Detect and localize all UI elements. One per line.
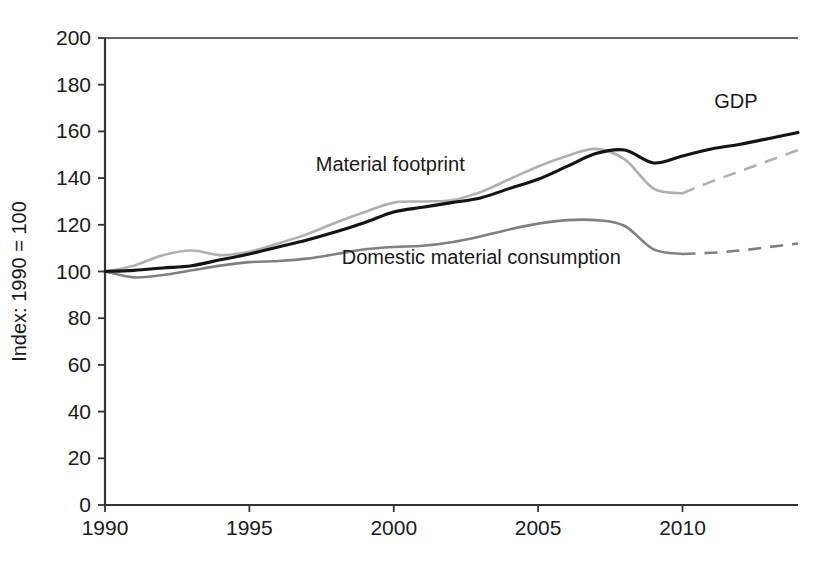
chart-figure: 0204060801001201401601802001990199520002… — [0, 0, 813, 566]
y-axis-title: Index: 1990 = 100 — [8, 201, 30, 362]
y-axis-tick-label: 80 — [68, 306, 91, 329]
y-axis-tick-label: 100 — [56, 260, 91, 283]
y-axis-tick-label: 0 — [79, 493, 91, 516]
y-axis-tick-label: 20 — [68, 446, 91, 469]
y-axis-tick-label: 160 — [56, 119, 91, 142]
y-axis-tick-label: 60 — [68, 353, 91, 376]
x-axis-tick-label: 2000 — [370, 516, 417, 539]
x-axis-tick-label: 2005 — [515, 516, 562, 539]
gdp-annotation: GDP — [714, 90, 757, 112]
domestic-material-consumption-annotation: Domestic material consumption — [342, 246, 621, 268]
material-footprint-annotation: Material footprint — [316, 153, 465, 175]
y-axis-tick-label: 180 — [56, 73, 91, 96]
series-line-dashed — [683, 243, 799, 254]
y-axis-tick-label: 40 — [68, 400, 91, 423]
y-axis-tick-label: 200 — [56, 26, 91, 49]
y-axis-tick-label: 140 — [56, 166, 91, 189]
x-axis-tick-label: 1990 — [82, 516, 129, 539]
x-axis-tick-label: 2010 — [659, 516, 706, 539]
x-axis-tick-label: 1995 — [226, 516, 273, 539]
cropped-header-artifact — [40, 0, 600, 7]
series-line-dashed — [683, 150, 799, 193]
y-axis-tick-label: 120 — [56, 213, 91, 236]
line-chart: 0204060801001201401601802001990199520002… — [0, 0, 813, 566]
